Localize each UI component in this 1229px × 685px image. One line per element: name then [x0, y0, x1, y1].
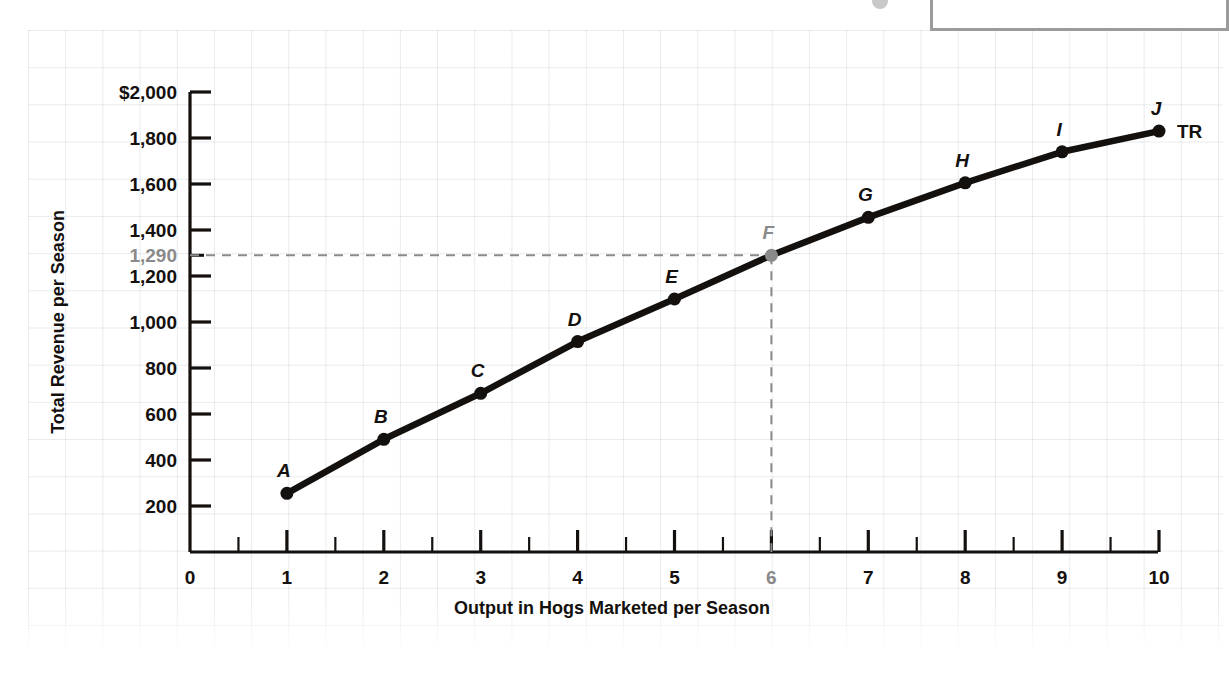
x-tick-label: 8 [960, 567, 971, 588]
x-tick-label: 10 [1148, 567, 1169, 588]
data-point-label: I [1056, 119, 1062, 140]
x-tick-label: 0 [185, 567, 196, 588]
highlight-guide-lines [190, 255, 771, 552]
x-tick-label: 6 [766, 567, 777, 588]
x-tick-label: 3 [475, 567, 486, 588]
data-point-label: C [471, 360, 485, 381]
x-tick-label: 7 [863, 567, 874, 588]
data-point-marker [765, 249, 778, 262]
y-tick-label: 600 [145, 404, 177, 425]
data-point-label: A [276, 460, 291, 481]
data-point-label: B [374, 406, 388, 427]
y-tick-label: 1,800 [129, 128, 177, 149]
data-point-marker [1153, 125, 1166, 138]
y-tick-label: 800 [145, 358, 177, 379]
y-tick-label: 1,000 [129, 312, 177, 333]
y-axis-title: Total Revenue per Season [48, 210, 68, 434]
y-tick-label: 1,200 [129, 266, 177, 287]
data-point-marker [571, 335, 584, 348]
x-axis-ticks: 012345678910 [185, 530, 1170, 588]
data-point-marker [1056, 145, 1069, 158]
y-tick-label: 1,600 [129, 174, 177, 195]
y-tick-label: 1,400 [129, 220, 177, 241]
y-tick-label: 400 [145, 450, 177, 471]
series-label-tr: TR [1177, 121, 1203, 142]
y-tick-label: 200 [145, 496, 177, 517]
x-tick-label: 5 [669, 567, 680, 588]
data-point-label: D [568, 309, 582, 330]
data-point-marker [474, 387, 487, 400]
data-point-marker [377, 433, 390, 446]
y-tick-label: $2,000 [119, 82, 177, 103]
x-tick-label: 9 [1057, 567, 1068, 588]
data-point-label: G [858, 184, 873, 205]
data-point-marker [668, 293, 681, 306]
data-point-marker [280, 487, 293, 500]
y-tick-label-highlight: 1,290 [129, 245, 177, 266]
x-tick-label: 4 [572, 567, 583, 588]
data-point-label: F [763, 222, 776, 243]
x-axis-title: Output in Hogs Marketed per Season [454, 598, 770, 618]
x-tick-label: 1 [282, 567, 293, 588]
data-point-label: E [665, 266, 679, 287]
data-point-label: J [1151, 98, 1162, 119]
data-point-marker [862, 211, 875, 224]
data-point-label: H [955, 150, 970, 171]
data-point-marker [959, 176, 972, 189]
x-tick-label: 2 [379, 567, 390, 588]
y-axis-ticks: $2,0001,8001,6001,4001,2001,000800600400… [119, 82, 211, 517]
total-revenue-curve [287, 131, 1159, 493]
